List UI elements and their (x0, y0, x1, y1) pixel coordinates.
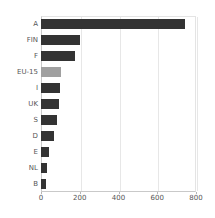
category-label-eu-15: EU-15 (17, 68, 38, 76)
bar-fill (41, 147, 49, 157)
value-axis-labels: 0200400600800 (0, 194, 215, 208)
bars-layer (41, 16, 196, 192)
x-tick-label-200: 200 (73, 194, 86, 203)
bar-fill (41, 115, 57, 125)
bar-fill (41, 35, 80, 45)
category-label-i: I (36, 84, 38, 92)
bar-fin (41, 35, 80, 45)
category-label-s: S (34, 116, 38, 124)
bar-e (41, 147, 49, 157)
bar-uk (41, 99, 59, 109)
category-label-uk: UK (28, 100, 38, 108)
bar-fill (41, 163, 47, 173)
category-label-e: E (34, 148, 38, 156)
x-tick-label-800: 800 (189, 194, 202, 203)
x-tick (157, 192, 158, 194)
bar-d (41, 131, 54, 141)
category-label-d: D (33, 132, 38, 140)
x-tick-label-0: 0 (39, 194, 43, 203)
category-label-b: B (33, 180, 38, 188)
bar-eu-15 (41, 67, 61, 77)
bar-fill (41, 83, 60, 93)
bar-a (41, 19, 185, 29)
category-label-nl: NL (29, 164, 38, 172)
x-tick (196, 192, 197, 194)
bar-chart: AFINFEU-15IUKSDENLB 0200400600800 (0, 0, 215, 218)
x-tick-label-600: 600 (151, 194, 164, 203)
bar-fill (41, 179, 46, 189)
gridline (197, 17, 198, 191)
category-label-a: A (33, 20, 38, 28)
bar-nl (41, 163, 47, 173)
x-tick (41, 192, 42, 194)
bar-fill (41, 67, 61, 77)
bar-b (41, 179, 46, 189)
x-tick (80, 192, 81, 194)
bar-fill (41, 51, 75, 61)
x-tick (119, 192, 120, 194)
bar-fill (41, 19, 185, 29)
category-axis-labels: AFINFEU-15IUKSDENLB (0, 16, 38, 192)
bar-fill (41, 99, 59, 109)
bar-f (41, 51, 75, 61)
category-label-fin: FIN (27, 36, 38, 44)
x-tick-label-400: 400 (112, 194, 125, 203)
bar-s (41, 115, 57, 125)
category-label-f: F (34, 52, 38, 60)
bar-i (41, 83, 60, 93)
bar-fill (41, 131, 54, 141)
